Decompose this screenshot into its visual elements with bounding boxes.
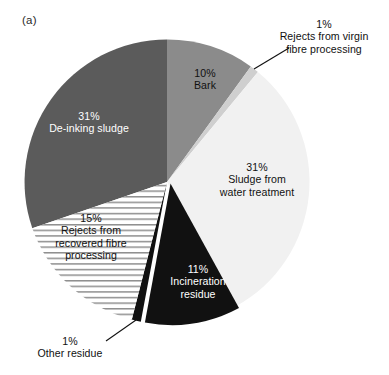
slice-label-other-residue: 1% Other residue	[15, 335, 125, 360]
slice-percent-sludge-water-treatment: 31%	[194, 161, 320, 173]
slice-name-rejects-recovered-fibre-line2: recovered fibre	[29, 237, 153, 249]
slice-percent-rejects-virgin-fibre: 1%	[262, 18, 386, 30]
slice-label-rejects-virgin-fibre: 1% Rejects from virgin fibre processing	[262, 18, 386, 55]
slice-name-rejects-recovered-fibre-line1: Rejects from	[29, 224, 153, 236]
slice-percent-rejects-recovered-fibre: 15%	[29, 212, 153, 224]
slice-percent-incineration-residue: 11%	[151, 263, 245, 275]
slice-name-bark: Bark	[173, 79, 237, 91]
slice-label-rejects-recovered-fibre: 15% Rejects from recovered fibre process…	[29, 212, 153, 262]
figure-container: (a)	[0, 0, 389, 375]
slice-percent-other-residue: 1%	[15, 335, 125, 347]
slice-label-sludge-water-treatment: 31% Sludge from water treatment	[194, 161, 320, 198]
slice-name-sludge-water-treatment-line2: water treatment	[194, 186, 320, 198]
slice-name-rejects-virgin-fibre-line2: fibre processing	[262, 43, 386, 55]
slice-name-incineration-residue-line1: Incineration	[151, 275, 245, 287]
slice-name-rejects-recovered-fibre-line3: processing	[29, 249, 153, 261]
slice-name-sludge-water-treatment-line1: Sludge from	[194, 173, 320, 185]
slice-label-incineration-residue: 11% Incineration residue	[151, 263, 245, 300]
slice-name-incineration-residue-line2: residue	[151, 288, 245, 300]
slice-label-de-inking-sludge: 31% De-inking sludge	[21, 110, 157, 135]
slice-name-other-residue: Other residue	[15, 347, 125, 359]
slice-label-bark: 10% Bark	[173, 67, 237, 92]
slice-percent-de-inking-sludge: 31%	[21, 110, 157, 122]
slice-name-rejects-virgin-fibre-line1: Rejects from virgin	[262, 30, 386, 42]
slice-name-de-inking-sludge: De-inking sludge	[21, 122, 157, 134]
slice-percent-bark: 10%	[173, 67, 237, 79]
